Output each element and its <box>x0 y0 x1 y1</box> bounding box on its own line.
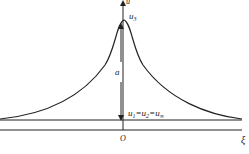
amplitude-label: a <box>115 67 120 77</box>
uinf-sub: ∞ <box>160 113 165 119</box>
baseline-label: u1=u2=u∞ <box>128 108 165 119</box>
u-axis-label: u <box>126 0 130 6</box>
peak-label: u3 <box>129 11 137 22</box>
peak-label-sub: 3 <box>133 16 137 22</box>
soliton-diagram: u u3 a u1=u2=u∞ O ξ <box>0 0 249 154</box>
origin-label: O <box>120 134 126 143</box>
xi-axis-label: ξ <box>241 134 246 146</box>
